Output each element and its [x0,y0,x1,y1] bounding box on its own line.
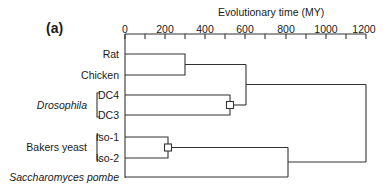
group-drosophila: Drosophila [37,99,87,111]
node-marker-drosophila [227,102,234,109]
leaf-dc3: DC3 [98,109,119,121]
node-marker-yeast [165,144,172,151]
branch-dc4-dc3 [125,95,230,115]
leaf-pombe: Saccharomyces pombe [9,171,119,183]
leaf-chicken: Chicken [81,69,119,81]
leaf-rat: Rat [103,48,119,60]
leaf-iso2: Iso-2 [96,152,119,164]
leaf-iso1: Iso-1 [96,131,119,143]
group-bakers-yeast: Bakers yeast [26,141,87,153]
branch-iso1-iso2 [125,137,168,158]
branch-rat-chicken [125,54,185,75]
dendrogram [0,0,391,196]
leaf-dc4: DC4 [98,89,119,101]
